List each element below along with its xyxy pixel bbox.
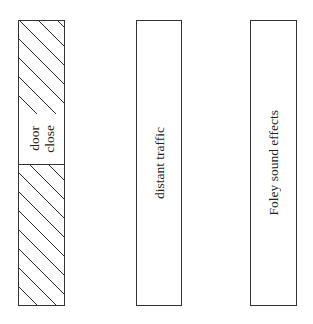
event-label-line-2: close xyxy=(42,125,57,153)
track-label: distant traffic xyxy=(152,127,167,199)
hatched-region-bottom xyxy=(19,164,64,305)
track-label-wrapper: distant traffic xyxy=(137,21,181,305)
track-foley-sound-effects: Foley sound effects xyxy=(250,20,297,306)
track-label: Foley sound effects xyxy=(266,110,281,215)
event-door-close: door close xyxy=(19,114,64,164)
event-label-line-1: door xyxy=(27,125,42,153)
sound-layers-diagram: door close distant traffic Foley sound e… xyxy=(0,0,313,324)
event-label: door close xyxy=(27,125,57,153)
track-distant-traffic: distant traffic xyxy=(136,20,182,306)
hatched-region-top xyxy=(19,21,64,115)
track-label-wrapper: Foley sound effects xyxy=(251,21,296,305)
track-hatched-with-door-close: door close xyxy=(18,20,65,306)
